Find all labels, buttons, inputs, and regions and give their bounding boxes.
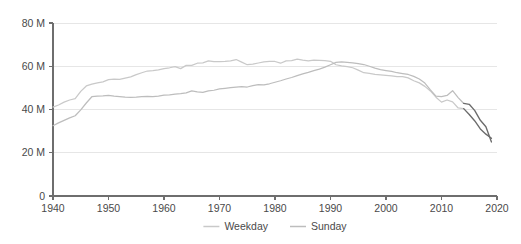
y-tick-label-1: 20 M <box>22 146 45 158</box>
series-line-sunday <box>53 62 464 126</box>
x-tick-label-8: 2020 <box>485 202 509 214</box>
chart-legend: WeekdaySunday <box>203 220 347 232</box>
x-tick-label-2: 1960 <box>152 202 176 214</box>
y-tick-label-3: 60 M <box>22 60 45 72</box>
x-tick-label-6: 2000 <box>374 202 398 214</box>
legend-label-weekday: Weekday <box>224 220 268 232</box>
x-tick-label-1: 1950 <box>97 202 121 214</box>
series-line-estimate-weekday <box>464 109 492 139</box>
line-chart: 020 M40 M60 M80 M 1940195019601970198019… <box>0 0 521 244</box>
data-series <box>53 59 491 142</box>
x-tick-label-7: 2010 <box>430 202 454 214</box>
gridlines <box>53 23 497 153</box>
x-tick-label-5: 1990 <box>319 202 343 214</box>
y-axis-ticks: 020 M40 M60 M80 M <box>22 17 53 202</box>
legend-label-sunday: Sunday <box>311 220 347 232</box>
x-tick-label-4: 1980 <box>263 202 287 214</box>
y-tick-label-2: 40 M <box>22 103 45 115</box>
x-tick-label-0: 1940 <box>41 202 65 214</box>
y-tick-label-4: 80 M <box>22 17 45 29</box>
y-tick-label-0: 0 <box>39 190 45 202</box>
chart-container: 020 M40 M60 M80 M 1940195019601970198019… <box>0 0 521 244</box>
x-tick-label-3: 1970 <box>208 202 232 214</box>
x-axis-ticks: 194019501960197019801990200020102020 <box>41 196 509 214</box>
